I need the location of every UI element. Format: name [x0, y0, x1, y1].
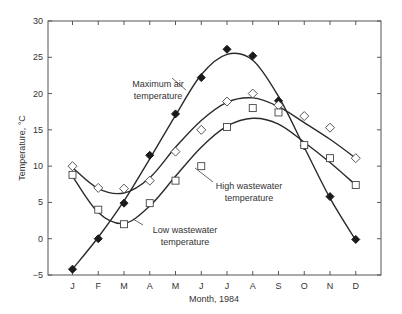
x-tick-label: D: [353, 281, 360, 291]
annotation-high-wastewater-text: temperature: [225, 193, 274, 203]
open-diamond-marker: [145, 176, 154, 185]
annotation-low-wastewater-leader: [133, 219, 143, 225]
open-diamond-marker: [326, 123, 335, 132]
open-square-marker: [275, 109, 282, 116]
annotations: Maximum airtemperatureHigh wastewatertem…: [132, 78, 282, 247]
y-tick-label: −5: [33, 270, 43, 280]
x-tick-label: M: [120, 281, 128, 291]
y-tick-label: 15: [33, 125, 43, 135]
x-tick-label: J: [199, 281, 204, 291]
open-square-marker: [249, 105, 256, 112]
x-tick-label: A: [147, 281, 153, 291]
open-square-marker: [198, 163, 205, 170]
curve-max-air: [73, 53, 356, 269]
annotation-low-wastewater-text: temperature: [161, 237, 210, 247]
data-markers: [68, 45, 360, 273]
x-tick-label: F: [96, 281, 102, 291]
annotation-high-wastewater-leader: [195, 168, 213, 182]
y-tick-label: 0: [38, 234, 43, 244]
filled-diamond-marker: [146, 151, 154, 159]
x-tick-label: N: [327, 281, 334, 291]
curve-low-wastewater: [73, 118, 356, 223]
annotation-high-wastewater-text: High wastewater: [216, 181, 283, 191]
open-diamond-marker: [197, 125, 206, 134]
annotation-max-air-text: Maximum air: [132, 79, 184, 89]
y-tick-label: 25: [33, 52, 43, 62]
fitted-curves: [73, 53, 356, 269]
curve-high-wastewater: [73, 98, 356, 194]
open-diamond-marker: [300, 112, 309, 121]
open-square-marker: [95, 206, 102, 213]
temperature-chart: −5051015202530 JFMAMJJASOND Maximum airt…: [0, 0, 402, 314]
y-axis-title: Temperature, °C: [17, 115, 27, 181]
open-square-marker: [172, 177, 179, 184]
annotation-max-air-text: temperature: [134, 91, 183, 101]
annotation-low-wastewater-text: Low wastewater: [153, 225, 218, 235]
open-diamond-marker: [223, 97, 232, 106]
open-square-marker: [301, 142, 308, 149]
open-diamond-marker: [94, 183, 103, 192]
x-axis-title: Month, 1984: [189, 294, 239, 304]
open-square-marker: [352, 182, 359, 189]
open-square-marker: [327, 155, 334, 162]
filled-diamond-marker: [197, 74, 205, 82]
open-square-marker: [121, 221, 128, 228]
y-tick-label: 20: [33, 89, 43, 99]
y-tick-label: 5: [38, 197, 43, 207]
x-tick-label: A: [250, 281, 256, 291]
y-tick-label: 30: [33, 16, 43, 26]
filled-diamond-marker: [223, 45, 231, 53]
open-square-marker: [146, 200, 153, 207]
x-tick-label: J: [225, 281, 230, 291]
open-diamond-marker: [248, 89, 257, 98]
open-square-marker: [224, 123, 231, 130]
open-square-marker: [69, 171, 76, 178]
x-tick-label: O: [301, 281, 308, 291]
open-diamond-marker: [171, 147, 180, 156]
y-tick-label: 10: [33, 161, 43, 171]
open-diamond-marker: [68, 162, 77, 171]
x-tick-label: M: [172, 281, 180, 291]
x-tick-label: J: [70, 281, 75, 291]
x-tick-label: S: [275, 281, 281, 291]
